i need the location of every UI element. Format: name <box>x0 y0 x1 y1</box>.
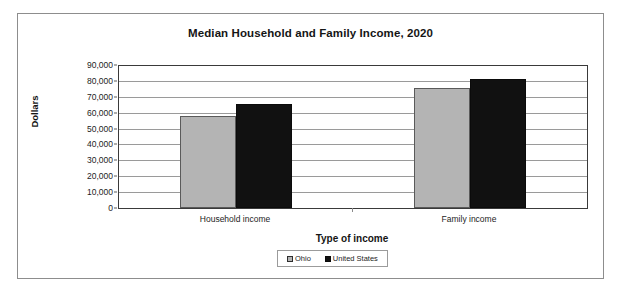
chart-card: Median Household and Family Income, 2020… <box>17 13 604 279</box>
plot-area <box>118 65 588 209</box>
bar-ohio-household-income <box>180 116 236 208</box>
x-axis-tick-mark <box>352 208 353 212</box>
y-axis-tick-mark <box>114 112 117 113</box>
y-axis-title: Dollars <box>29 77 40 147</box>
y-axis-tick-mark <box>114 128 117 129</box>
chart-legend: OhioUnited States <box>277 250 388 267</box>
y-axis-tick-label: 80,000 <box>58 76 113 85</box>
y-axis-tick-label: 50,000 <box>58 124 113 133</box>
bar-united-states-family-income <box>470 79 526 208</box>
legend-item-united-states[interactable]: United States <box>325 254 378 263</box>
legend-item-label: Ohio <box>295 254 311 263</box>
y-axis-tick-mark <box>114 80 117 81</box>
chart-title: Median Household and Family Income, 2020 <box>18 27 603 39</box>
y-axis-tick-mark <box>114 208 117 209</box>
x-axis-category-label: Household income <box>200 214 270 224</box>
y-axis-tick-labels: 90,00080,00070,00060,00050,00040,00030,0… <box>58 65 113 208</box>
y-axis-tick-label: 40,000 <box>58 140 113 149</box>
legend-swatch-icon <box>325 256 331 262</box>
y-axis-tick-label: 30,000 <box>58 156 113 165</box>
y-axis-tick-label: 60,000 <box>58 108 113 117</box>
gridline <box>119 65 587 66</box>
y-axis-tick-label: 10,000 <box>58 188 113 197</box>
y-axis-tick-mark <box>114 160 117 161</box>
bar-ohio-family-income <box>414 88 470 208</box>
y-axis-tick-label: 20,000 <box>58 172 113 181</box>
y-axis-tick-mark <box>114 144 117 145</box>
y-axis-tick-mark <box>114 192 117 193</box>
y-axis-tick-label: 0 <box>58 204 113 213</box>
y-axis-tick-label: 70,000 <box>58 92 113 101</box>
y-axis-tick-mark <box>114 96 117 97</box>
y-axis-tick-mark <box>114 176 117 177</box>
legend-item-label: United States <box>333 254 378 263</box>
bar-united-states-household-income <box>236 104 292 208</box>
x-axis-title: Type of income <box>118 233 586 244</box>
y-axis-tick-mark <box>114 65 117 66</box>
legend-swatch-icon <box>287 256 293 262</box>
y-axis-tick-label: 90,000 <box>58 61 113 70</box>
x-axis-category-label: Family income <box>442 214 497 224</box>
legend-item-ohio[interactable]: Ohio <box>287 254 311 263</box>
